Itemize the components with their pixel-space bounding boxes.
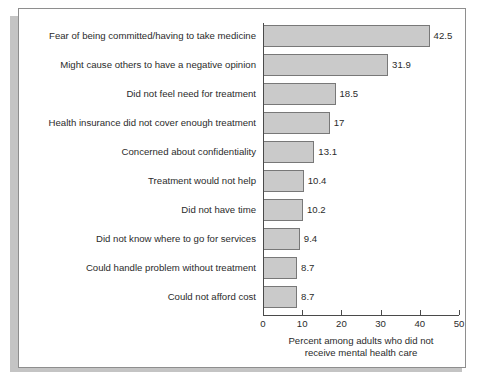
bar-category-label: Might cause others to have a negative op… <box>60 54 256 76</box>
bar <box>263 257 297 279</box>
bar-value-label: 42.5 <box>434 25 453 47</box>
bar-row: Treatment would not help10.4 <box>19 170 467 199</box>
bar-category-label: Could handle problem without treatment <box>86 257 256 279</box>
x-axis-line <box>263 315 459 316</box>
y-axis-line <box>263 23 264 315</box>
bar-category-label: Did not feel need for treatment <box>126 83 256 105</box>
bar-value-label: 13.1 <box>318 141 337 163</box>
bar-value-label: 10.2 <box>307 199 326 221</box>
x-axis-title-line-2: receive mental health care <box>263 347 459 359</box>
bar-row: Concerned about confidentiality13.1 <box>19 141 467 170</box>
bar-value-label: 18.5 <box>340 83 359 105</box>
bar-category-label: Fear of being committed/having to take m… <box>49 25 256 47</box>
bar-category-label: Concerned about confidentiality <box>122 141 256 163</box>
bar <box>263 286 297 308</box>
bar-row: Fear of being committed/having to take m… <box>19 25 467 54</box>
bar <box>263 112 330 134</box>
x-axis-tick-label: 40 <box>414 318 425 329</box>
x-axis-tick <box>420 310 421 315</box>
bar-value-label: 8.7 <box>301 257 314 279</box>
bar-category-label: Did not know where to go for services <box>96 228 256 250</box>
bar <box>263 83 336 105</box>
x-axis-tick <box>381 310 382 315</box>
x-axis-tick-label: 50 <box>454 318 465 329</box>
bar-category-label: Could not afford cost <box>168 286 256 308</box>
chart-figure-frame: Fear of being committed/having to take m… <box>18 8 466 368</box>
bar-value-label: 8.7 <box>301 286 314 308</box>
bar <box>263 170 304 192</box>
x-axis-title: Percent among adults who did not receive… <box>263 335 459 359</box>
x-axis-tick-label: 20 <box>336 318 347 329</box>
bar-category-label: Treatment would not help <box>148 170 256 192</box>
x-axis-title-line-1: Percent among adults who did not <box>263 335 459 347</box>
bar <box>263 54 388 76</box>
x-axis-tick <box>341 310 342 315</box>
bar-row: Did not have time10.2 <box>19 199 467 228</box>
bar <box>263 199 303 221</box>
x-axis-tick-label: 0 <box>260 318 265 329</box>
x-axis-tick <box>263 310 264 315</box>
bar-category-label: Health insurance did not cover enough tr… <box>49 112 256 134</box>
bar-value-label: 31.9 <box>392 54 411 76</box>
bar-row: Did not know where to go for services9.4 <box>19 228 467 257</box>
bar-chart-plot-area: Fear of being committed/having to take m… <box>19 9 467 369</box>
bar-value-label: 17 <box>334 112 345 134</box>
bar-row: Could not afford cost8.7 <box>19 286 467 315</box>
bar <box>263 141 314 163</box>
bar <box>263 25 430 47</box>
bar <box>263 228 300 250</box>
bar-row: Did not feel need for treatment18.5 <box>19 83 467 112</box>
x-axis-tick <box>302 310 303 315</box>
bar-value-label: 9.4 <box>304 228 317 250</box>
bar-row: Health insurance did not cover enough tr… <box>19 112 467 141</box>
bar-row: Might cause others to have a negative op… <box>19 54 467 83</box>
x-axis-tick-label: 10 <box>297 318 308 329</box>
bar-value-label: 10.4 <box>308 170 327 192</box>
bar-row: Could handle problem without treatment8.… <box>19 257 467 286</box>
bar-category-label: Did not have time <box>181 199 256 221</box>
x-axis-tick <box>459 310 460 315</box>
x-axis-tick-label: 30 <box>375 318 386 329</box>
